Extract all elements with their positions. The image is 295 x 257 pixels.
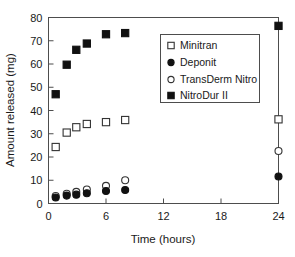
chart-figure: 01020304050607080 06121824 Time (hours) … [0, 0, 295, 257]
y-tick-label: 70 [30, 35, 42, 47]
data-point [275, 116, 282, 123]
data-point [102, 31, 109, 38]
legend-item-transderm-nitro[interactable]: TransDerm Nitro [168, 73, 257, 85]
scatter-plot: 01020304050607080 06121824 Time (hours) … [0, 0, 295, 257]
y-axis-ticks [49, 18, 54, 204]
series-minitran [52, 116, 282, 151]
x-tick-label: 18 [215, 210, 227, 222]
data-point [83, 120, 90, 127]
x-axis-tick-labels: 06121824 [45, 210, 284, 222]
legend-marker-open-circle-icon [168, 76, 174, 82]
y-tick-label: 20 [30, 151, 42, 163]
data-point [73, 46, 80, 53]
x-tick-label: 12 [157, 210, 169, 222]
x-tick-label: 24 [272, 210, 284, 222]
x-tick-label: 0 [45, 210, 51, 222]
data-point [102, 119, 109, 126]
data-point [275, 173, 282, 180]
y-tick-label: 0 [36, 198, 42, 210]
data-point [63, 61, 70, 68]
data-point [83, 40, 90, 47]
data-point [122, 187, 129, 194]
chart-legend: MinitranDeponitTransDerm NitroNitroDur I… [161, 35, 260, 103]
data-point [122, 29, 129, 36]
legend-label: NitroDur II [180, 89, 228, 101]
data-point [52, 194, 59, 201]
y-tick-label: 10 [30, 174, 42, 186]
y-axis-tick-labels: 01020304050607080 [30, 12, 42, 210]
data-point [103, 187, 110, 194]
legend-label: Minitran [180, 39, 218, 51]
legend-marker-open-square-icon [168, 42, 174, 48]
data-point [73, 191, 80, 198]
data-point [73, 124, 80, 131]
data-point [52, 143, 59, 150]
y-axis-title: Amount released (mg) [4, 53, 16, 167]
legend-label: Deponit [180, 56, 216, 68]
x-axis-ticks [49, 199, 279, 204]
data-point [63, 192, 70, 199]
data-point [275, 22, 282, 29]
data-point [83, 190, 90, 197]
data-point [122, 116, 129, 123]
legend-marker-filled-circle-icon [168, 59, 174, 65]
data-point [275, 147, 282, 154]
x-axis-title: Time (hours) [131, 233, 196, 245]
legend-marker-filled-square-icon [168, 92, 174, 98]
x-tick-label: 6 [103, 210, 109, 222]
data-point [122, 177, 129, 184]
y-tick-label: 30 [30, 128, 42, 140]
data-point [63, 129, 70, 136]
legend-label: TransDerm Nitro [180, 73, 257, 85]
y-tick-label: 50 [30, 81, 42, 93]
y-tick-label: 80 [30, 12, 42, 24]
y-tick-label: 40 [30, 105, 42, 117]
y-tick-label: 60 [30, 58, 42, 70]
data-point [52, 91, 59, 98]
